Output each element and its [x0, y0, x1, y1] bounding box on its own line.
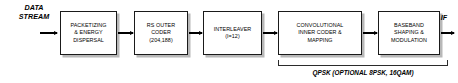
block-line: CODER — [151, 29, 171, 36]
block-line: (I=12) — [225, 33, 240, 40]
block-line: BASEBAND — [394, 22, 424, 29]
block-line: (204,188) — [149, 37, 173, 44]
block-line: CONVOLUTIONAL — [297, 22, 344, 29]
block-packetizing-energy-dispersal[interactable]: PACKETIZING & ENERGY DISPERSAL — [60, 11, 117, 55]
input-label-line-2: STREAM — [19, 12, 49, 21]
modulation-span-bracket — [278, 60, 448, 66]
arrow-rs-coder-to-interleaver — [189, 32, 202, 33]
block-convolutional-inner-coder-mapping[interactable]: CONVOLUTIONAL INNER CODER & MAPPING — [278, 11, 362, 55]
block-diagram: DATA STREAM PACKETIZING & ENERGY DISPERS… — [0, 0, 458, 83]
block-line: INTERLEAVER — [214, 26, 252, 33]
output-if-label: IF — [432, 14, 456, 23]
block-line: MAPPING — [307, 37, 332, 44]
block-line: MODULATION — [391, 37, 427, 44]
block-line: PACKETIZING — [70, 22, 106, 29]
block-line: INNER CODER & — [298, 29, 341, 36]
arrow-interleaver-to-convolutional — [263, 32, 277, 33]
block-line: RS OUTER — [147, 22, 175, 29]
modulation-scheme-caption: QPSK (OPTIONAL 8PSK, 16QAM) — [273, 69, 453, 77]
block-line: & ENERGY — [74, 29, 102, 36]
arrow-convolutional-to-baseband — [363, 32, 377, 33]
block-line: SHAPING & — [394, 29, 424, 36]
input-data-stream-label: DATA STREAM — [7, 4, 61, 21]
block-baseband-shaping-modulation[interactable]: BASEBAND SHAPING & MODULATION — [378, 11, 440, 55]
arrow-baseband-to-if-output — [441, 32, 454, 33]
block-line: DISPERSAL — [73, 37, 104, 44]
block-rs-outer-coder[interactable]: RS OUTER CODER (204,188) — [134, 11, 188, 55]
block-interleaver[interactable]: INTERLEAVER (I=12) — [203, 11, 262, 55]
arrow-packetizing-to-rs-coder — [118, 32, 133, 33]
arrow-input-to-packetizing — [40, 32, 57, 33]
